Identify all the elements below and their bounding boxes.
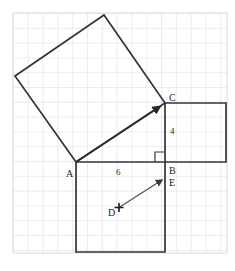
side-length-bc: 4: [170, 127, 175, 136]
vertex-label-d: D: [108, 208, 115, 218]
geometry-figure: A B C D E 6 4: [0, 0, 235, 271]
vertex-label-b: B: [169, 166, 176, 176]
vertex-label-a: A: [66, 169, 73, 179]
vertex-label-e: E: [169, 178, 175, 188]
vertex-label-c: C: [169, 93, 176, 103]
side-length-ab: 6: [116, 168, 121, 177]
geometry-canvas: [0, 0, 235, 271]
